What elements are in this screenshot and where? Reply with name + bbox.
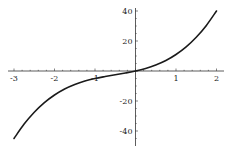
y-tick-label: 20 [122,37,132,46]
x-tick-label: -3 [10,74,18,83]
function-curve [14,11,217,139]
y-tick-label: -20 [120,97,133,106]
x-tick-label: -2 [51,74,59,83]
axes [8,8,224,146]
y-tick-label: -40 [120,127,133,136]
cubic-function-plot: -3-2-1124020-20-40 [0,0,231,148]
x-tick-label: 1 [173,74,178,83]
y-tick-label: 40 [122,7,132,16]
tick-labels: -3-2-1124020-20-40 [10,7,219,136]
x-tick-label: 2 [214,74,219,83]
